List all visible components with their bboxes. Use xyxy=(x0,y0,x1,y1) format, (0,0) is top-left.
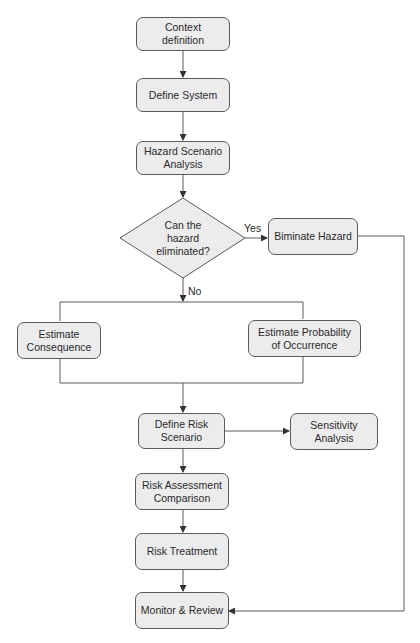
node-label: Comparison xyxy=(142,492,222,505)
node-estimate-consequence: EstimateConsequence xyxy=(17,322,101,359)
decision-label: eliminated? xyxy=(133,245,233,258)
node-estimate-probability: Estimate Probabilityof Occurrence xyxy=(248,320,361,357)
edge-label-yes: Yes xyxy=(244,222,261,234)
node-label: Risk Treatment xyxy=(147,545,218,558)
node-label: Define Risk xyxy=(155,418,209,431)
node-label: definition xyxy=(162,34,204,47)
node-define-system: Define System xyxy=(136,78,230,112)
node-label: Estimate Probability xyxy=(258,326,351,339)
node-label: Define System xyxy=(149,89,217,102)
node-monitor-review: Monitor & Review xyxy=(135,592,229,629)
node-define-risk-scenario: Define RiskScenario xyxy=(138,413,225,449)
decision-label: Can the xyxy=(133,219,233,232)
node-hazard-scenario-analysis: Hazard ScenarioAnalysis xyxy=(136,141,230,175)
node-risk-assessment-comparison: Risk AssessmentComparison xyxy=(135,473,229,510)
node-label: Hazard Scenario xyxy=(144,145,222,158)
node-eliminate-hazard: Biminate Hazard xyxy=(268,218,358,255)
node-risk-treatment: Risk Treatment xyxy=(135,533,229,570)
flowchart: Contextdefinition Define System Hazard S… xyxy=(0,0,420,643)
node-label: Monitor & Review xyxy=(141,604,223,617)
node-label: Context xyxy=(162,21,204,34)
node-sensitivity-analysis: SensitivityAnalysis xyxy=(290,413,378,450)
node-context-definition: Contextdefinition xyxy=(136,17,230,51)
decision-hazard-eliminated: Can the hazard eliminated? xyxy=(133,219,233,258)
decision-label: hazard xyxy=(133,232,233,245)
node-label: Analysis xyxy=(144,158,222,171)
edge-label-no: No xyxy=(188,285,201,297)
node-label: Analysis xyxy=(310,432,357,445)
node-label: Consequence xyxy=(27,341,92,354)
node-label: Sensitivity xyxy=(310,419,357,432)
node-label: Risk Assessment xyxy=(142,479,222,492)
node-label: Estimate xyxy=(27,328,92,341)
node-label: Scenario xyxy=(155,431,209,444)
node-label: Biminate Hazard xyxy=(274,230,352,243)
node-label: of Occurrence xyxy=(258,339,351,352)
